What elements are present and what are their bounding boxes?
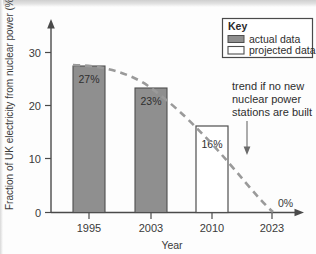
y-tick-label-10: 10 (29, 153, 41, 165)
annotation-line-3: stations are built (232, 106, 312, 118)
bar-label-2003: 23% (140, 95, 161, 107)
bar-1995-actual (73, 66, 105, 213)
x-axis-arrowhead (295, 209, 305, 217)
legend-swatch-actual-data (228, 36, 244, 43)
trend-annotation: trend if no new nuclear power stations a… (232, 80, 312, 155)
bar-label-2010: 16% (201, 138, 222, 150)
x-tick-label-2003: 2003 (139, 222, 163, 234)
x-tick-label-2010: 2010 (200, 222, 224, 234)
x-tick-marks (89, 213, 272, 220)
y-tick-marks (45, 53, 51, 213)
annotation-line-2: nuclear power (232, 93, 301, 105)
endpoint-label-0-percent: 0% (278, 197, 293, 209)
nuclear-power-bar-chart: 30 20 10 0 Fraction of UK electricity fr… (0, 0, 316, 254)
y-axis-title: Fraction of UK electricity from nuclear … (4, 0, 15, 210)
y-tick-label-0: 0 (35, 207, 41, 219)
legend: Key actual data projected data (223, 19, 316, 58)
bar-label-1995: 27% (78, 73, 99, 85)
x-tick-label-1995: 1995 (77, 222, 101, 234)
chart-canvas: 30 20 10 0 Fraction of UK electricity fr… (0, 0, 316, 254)
annotation-line-1: trend if no new (232, 80, 304, 92)
y-axis-arrowhead (47, 19, 55, 29)
legend-swatch-projected-data (228, 47, 244, 55)
y-tick-label-20: 20 (29, 100, 41, 112)
x-axis-title: Year (161, 239, 183, 251)
x-tick-label-2023: 2023 (260, 222, 284, 234)
y-axis (47, 19, 55, 213)
y-tick-label-30: 30 (29, 47, 41, 59)
annotation-arrow-icon (244, 147, 251, 156)
legend-title: Key (228, 20, 247, 32)
legend-label-projected-data: projected data (249, 44, 316, 56)
